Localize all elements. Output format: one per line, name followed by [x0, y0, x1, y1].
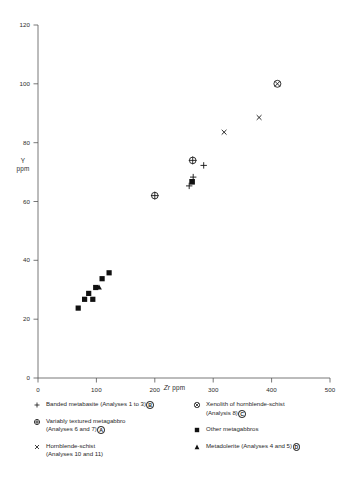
data-point-square [189, 179, 195, 185]
data-point-cross [222, 130, 227, 135]
legend-badge: C [238, 410, 246, 418]
y-tick-label-40: 40 [6, 256, 30, 263]
legend-item-metadolerite: Metadolerite (Analyses 4 and 5)D [193, 442, 345, 451]
x-axis-ticks [38, 378, 330, 383]
legend-label-line1: Variably textured metagabbro [46, 417, 126, 424]
y-tick-label-80: 80 [6, 139, 30, 146]
series-variably-textured-metagabbro [151, 157, 197, 200]
legend-badge: D [293, 443, 301, 451]
legend-item-other-metagabbros: Other metagabbros [193, 425, 345, 434]
legend-label-line1: Metadolerite (Analyses 4 and 5) [206, 442, 292, 449]
data-point-square [86, 291, 91, 296]
y-axis-unit: ppm [16, 165, 29, 172]
data-point-circled-plus [189, 157, 197, 165]
x-axis-title: Zr ppm [0, 384, 349, 391]
legend-label: Metadolerite (Analyses 4 and 5)D [206, 442, 345, 451]
legend-label-line1: Hornblende-schist [46, 442, 95, 449]
series-banded-metabasite [186, 162, 207, 189]
data-point-plus [201, 162, 207, 168]
plus-icon [33, 401, 43, 409]
axis-lines [38, 25, 330, 378]
legend-item-variably-textured-metagabbro: Variably textured metagabbro(Analyses 6 … [33, 417, 193, 435]
data-point-square [107, 270, 112, 275]
legend-item-banded-metabasite: Banded metabasite (Analyses 1 to 3)B [33, 400, 193, 409]
legend-label: Variably textured metagabbro(Analyses 6 … [46, 417, 193, 435]
data-point-circled-plus [151, 192, 159, 200]
y-tick-label-60: 60 [6, 198, 30, 205]
legend-label-line2: (Analysis 8) [206, 409, 238, 416]
legend-badge: A [97, 426, 105, 434]
plot-canvas [0, 0, 349, 400]
y-axis-ticks [34, 25, 39, 378]
legend-label-line2: (Analyses 10 and 11) [46, 450, 193, 459]
x-axis-unit: ppm [172, 384, 185, 391]
data-point-square [90, 297, 95, 302]
legend-label-line1: Banded metabasite (Analyses 1 to 3) [46, 400, 146, 407]
cross-icon [33, 443, 43, 451]
legend-item-hornblende-schist: Hornblende-schist(Analyses 10 and 11) [33, 442, 193, 459]
series-other-metagabbros [76, 179, 195, 311]
legend-label: Banded metabasite (Analyses 1 to 3)B [46, 400, 193, 409]
legend-label-line1: Other metagabbros [206, 425, 259, 432]
data-point-cross [257, 115, 262, 120]
legend-label-line2: (Analyses 6 and 7) [46, 425, 97, 432]
legend-column-right: Xenolith of hornblende-schist(Analysis 8… [193, 400, 345, 458]
y-tick-label-120: 120 [6, 21, 30, 28]
series-hornblende-schist [222, 115, 262, 135]
circled-plus-icon [33, 418, 43, 426]
y-tick-label-20: 20 [6, 315, 30, 322]
scatter-plot: 0 20 40 60 80 100 120 0 100 200 300 400 … [0, 0, 349, 400]
y-axis-symbol: Y [21, 157, 25, 164]
series-xenolith-hornblende-schist [274, 80, 281, 87]
data-point-circled-cross [274, 80, 281, 87]
legend-item-xenolith-hornblende-schist: Xenolith of hornblende-schist(Analysis 8… [193, 400, 345, 418]
legend-label: Hornblende-schist(Analyses 10 and 11) [46, 442, 193, 459]
legend-label-line1: Xenolith of hornblende-schist [206, 400, 285, 407]
x-axis-symbol: Zr [164, 384, 170, 391]
legend-label: Xenolith of hornblende-schist(Analysis 8… [206, 400, 345, 418]
filled-square-icon [193, 426, 203, 434]
y-axis-title: Y ppm [10, 157, 36, 173]
circled-cross-icon [193, 401, 203, 409]
data-point-square [100, 276, 105, 281]
legend-label: Other metagabbros [206, 425, 345, 434]
data-point-square [82, 297, 87, 302]
plot-legend: Banded metabasite (Analyses 1 to 3)B Var… [0, 400, 349, 482]
legend-badge: B [146, 401, 154, 409]
data-point-square [76, 306, 81, 311]
y-tick-label-100: 100 [6, 80, 30, 87]
legend-column-left: Banded metabasite (Analyses 1 to 3)B Var… [33, 400, 193, 466]
y-tick-label-0: 0 [6, 374, 30, 381]
filled-triangle-icon [193, 443, 203, 451]
